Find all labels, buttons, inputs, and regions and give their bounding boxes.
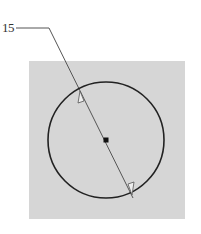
center-point-icon (104, 138, 109, 143)
diagram-canvas (0, 0, 201, 234)
